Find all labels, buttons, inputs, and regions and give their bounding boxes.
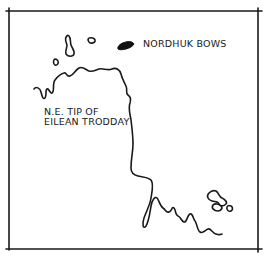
southeast-islands [208,191,233,212]
small-oval-island [88,38,95,43]
elongated-island [65,35,74,56]
comic-panel: NORDHUK BOWS N.E. TIP OF EILEAN TRODDAY [0,0,266,256]
nordhuk-bows-label: NORDHUK BOWS [143,39,227,49]
eilean-trodday-label-line2: EILEAN TRODDAY [44,117,129,127]
coastline [34,67,222,234]
tiny-island [54,59,59,65]
nordhuk-bows-marker [118,42,134,50]
eilean-trodday-label: N.E. TIP OF EILEAN TRODDAY [44,107,129,127]
